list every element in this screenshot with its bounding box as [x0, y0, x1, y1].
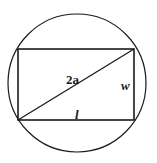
- length-label: l: [75, 108, 79, 121]
- diagonal-label: 2a: [66, 73, 79, 86]
- width-label: w: [121, 79, 130, 92]
